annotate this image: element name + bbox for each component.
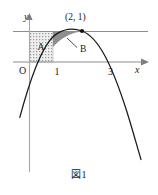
figure-caption: 図1 bbox=[0, 166, 158, 181]
vertex-point-label: (2, 1) bbox=[65, 12, 86, 23]
region-b-label: B bbox=[80, 44, 86, 54]
x-tick-label-1: 1 bbox=[55, 66, 60, 77]
region-a-label: A bbox=[38, 42, 45, 52]
x-tick-label-3: 3 bbox=[108, 66, 113, 77]
origin-label: O bbox=[19, 65, 26, 76]
figure-container: (2, 1) A B O 1 3 y x 図1 bbox=[0, 0, 158, 195]
vertex-point-marker bbox=[80, 29, 84, 33]
x-axis-label: x bbox=[134, 64, 140, 75]
y-axis-label: y bbox=[23, 11, 29, 22]
